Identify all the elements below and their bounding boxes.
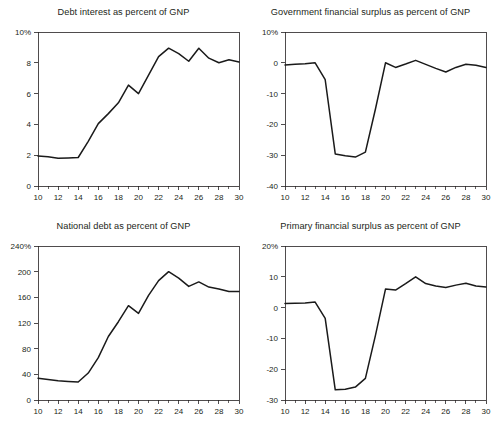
x-axis-tick-label: 10 bbox=[281, 407, 290, 416]
x-axis-tick-label: 26 bbox=[441, 193, 450, 202]
x-axis-tick-label: 20 bbox=[134, 193, 143, 202]
chart-plot-government-financial-surplus: 1012141618202224262830-40-30-20-10010% bbox=[247, 0, 494, 214]
chart-plot-national-debt: 101214161820222426283004080120160200240% bbox=[0, 214, 247, 428]
chart-plot-debt-interest: 10121416182022242628300246810% bbox=[0, 0, 247, 214]
x-axis-tick-label: 22 bbox=[154, 407, 163, 416]
x-axis-tick-label: 18 bbox=[114, 407, 123, 416]
y-axis-tick-label: 0 bbox=[27, 182, 32, 191]
chart-panel-primary-financial-surplus: Primary financial surplus as percent of … bbox=[247, 214, 494, 428]
x-axis-tick-label: 24 bbox=[421, 193, 430, 202]
y-axis-tick-label: 10% bbox=[15, 28, 31, 37]
x-axis-tick-label: 30 bbox=[482, 407, 491, 416]
x-axis-tick-label: 20 bbox=[381, 407, 390, 416]
y-axis-tick-label: 0 bbox=[274, 59, 279, 68]
chart-panel-government-financial-surplus: Government financial surplus as percent … bbox=[247, 0, 494, 214]
y-axis-tick-label: -20 bbox=[266, 365, 278, 374]
x-axis-tick-label: 18 bbox=[361, 407, 370, 416]
x-axis-tick-label: 22 bbox=[154, 193, 163, 202]
y-axis-tick-label: 0 bbox=[274, 304, 279, 313]
y-axis-tick-label: 240% bbox=[11, 242, 31, 251]
chart-panel-debt-interest: Debt interest as percent of GNP 10121416… bbox=[0, 0, 247, 214]
x-axis-tick-label: 30 bbox=[235, 193, 244, 202]
y-axis-tick-label: -10 bbox=[266, 334, 278, 343]
x-axis-tick-label: 26 bbox=[441, 407, 450, 416]
x-axis-tick-label: 16 bbox=[341, 193, 350, 202]
x-axis-tick-label: 12 bbox=[301, 193, 310, 202]
y-axis-tick-label: -20 bbox=[266, 120, 278, 129]
y-axis-tick-label: 10 bbox=[269, 273, 278, 282]
data-series-line bbox=[285, 60, 486, 157]
x-axis-tick-label: 28 bbox=[214, 407, 223, 416]
x-axis-tick-label: 16 bbox=[94, 407, 103, 416]
x-axis-tick-label: 28 bbox=[214, 193, 223, 202]
x-axis-tick-label: 20 bbox=[134, 407, 143, 416]
y-axis-tick-label: 2 bbox=[27, 151, 32, 160]
y-axis-tick-label: 80 bbox=[22, 345, 31, 354]
y-axis-tick-label: 160 bbox=[18, 293, 32, 302]
y-axis-tick-label: 6 bbox=[27, 90, 32, 99]
x-axis-tick-label: 18 bbox=[361, 193, 370, 202]
y-axis-tick-label: -40 bbox=[266, 182, 278, 191]
x-axis-tick-label: 10 bbox=[34, 193, 43, 202]
y-axis-tick-label: -10 bbox=[266, 90, 278, 99]
x-axis-tick-label: 26 bbox=[194, 193, 203, 202]
chart-plot-primary-financial-surplus: 1012141618202224262830-30-20-1001020% bbox=[247, 214, 494, 428]
chart-panel-national-debt: National debt as percent of GNP 10121416… bbox=[0, 214, 247, 428]
y-axis-tick-label: 8 bbox=[27, 59, 32, 68]
x-axis-tick-label: 16 bbox=[94, 193, 103, 202]
y-axis-tick-label: 10% bbox=[262, 28, 278, 37]
data-series-line bbox=[285, 277, 486, 390]
y-axis-tick-label: 120 bbox=[18, 319, 32, 328]
y-axis-tick-label: -30 bbox=[266, 396, 278, 405]
x-axis-tick-label: 14 bbox=[74, 193, 83, 202]
x-axis-tick-label: 28 bbox=[461, 407, 470, 416]
y-axis-tick-label: 0 bbox=[27, 396, 32, 405]
x-axis-tick-label: 16 bbox=[341, 407, 350, 416]
x-axis-tick-label: 26 bbox=[194, 407, 203, 416]
x-axis-tick-label: 14 bbox=[321, 407, 330, 416]
y-axis-tick-label: 4 bbox=[27, 120, 32, 129]
x-axis-tick-label: 12 bbox=[54, 407, 63, 416]
x-axis-tick-label: 18 bbox=[114, 193, 123, 202]
x-axis-tick-label: 24 bbox=[174, 193, 183, 202]
x-axis-tick-label: 22 bbox=[401, 193, 410, 202]
data-series-line bbox=[38, 48, 239, 158]
x-axis-tick-label: 22 bbox=[401, 407, 410, 416]
x-axis-tick-label: 30 bbox=[482, 193, 491, 202]
y-axis-tick-label: 200 bbox=[18, 268, 32, 277]
x-axis-tick-label: 14 bbox=[321, 193, 330, 202]
x-axis-tick-label: 24 bbox=[174, 407, 183, 416]
x-axis-tick-label: 24 bbox=[421, 407, 430, 416]
x-axis-tick-label: 12 bbox=[54, 193, 63, 202]
y-axis-tick-label: -30 bbox=[266, 151, 278, 160]
x-axis-tick-label: 30 bbox=[235, 407, 244, 416]
data-series-line bbox=[38, 272, 239, 382]
y-axis-tick-label: 40 bbox=[22, 370, 31, 379]
multi-panel-chart-figure: Debt interest as percent of GNP 10121416… bbox=[0, 0, 494, 428]
x-axis-tick-label: 28 bbox=[461, 193, 470, 202]
x-axis-tick-label: 20 bbox=[381, 193, 390, 202]
y-axis-tick-label: 20% bbox=[262, 242, 278, 251]
x-axis-tick-label: 12 bbox=[301, 407, 310, 416]
x-axis-tick-label: 10 bbox=[281, 193, 290, 202]
x-axis-tick-label: 14 bbox=[74, 407, 83, 416]
x-axis-tick-label: 10 bbox=[34, 407, 43, 416]
